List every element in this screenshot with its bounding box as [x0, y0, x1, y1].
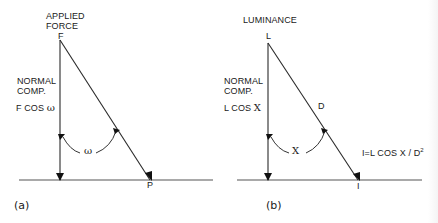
page-edge-shade — [428, 0, 438, 223]
applied-force-label-line1: APPLIED — [46, 11, 76, 21]
applied-force-label-line2: FORCE — [46, 21, 76, 31]
panel-label-b: (b) — [266, 199, 282, 212]
applied-force-label: APPLIED FORCE — [46, 11, 76, 31]
angle-label-omega: ω — [84, 146, 92, 156]
applied-force-line-a — [60, 40, 150, 180]
omega-symbol: ω — [47, 102, 55, 113]
normal-comp-label-b: NORMAL COMP. — [224, 76, 263, 96]
diagram-lines — [0, 0, 438, 223]
distance-label-d: D — [318, 101, 325, 111]
formula-text: I=L COS X / D — [362, 148, 420, 158]
diagram-b-geometry — [237, 43, 422, 181]
luminance-label: LUMINANCE — [243, 15, 297, 25]
angle-arc-right-b — [306, 131, 325, 153]
component-prefix-a: F COS — [16, 103, 44, 113]
normal-comp-line2-b: COMP. — [224, 86, 263, 96]
angle-arc-right-a — [96, 131, 116, 153]
normal-comp-line2-a: COMP. — [17, 86, 56, 96]
figure-canvas: APPLIED FORCE F NORMAL COMP. F COS ω ω P… — [0, 0, 438, 223]
point-label-p: P — [147, 180, 153, 190]
component-formula-a: F COS ω — [16, 103, 55, 113]
normal-comp-line1-a: NORMAL — [17, 76, 56, 86]
angle-arc-left-b — [271, 137, 289, 153]
luminance-line-b — [268, 43, 358, 180]
component-prefix-b: L COS — [224, 103, 251, 113]
component-formula-b: L COS X — [224, 103, 261, 113]
apex-label-f: F — [58, 31, 64, 41]
intensity-formula: I=L COS X / D2 — [362, 145, 424, 158]
angle-arc-left-a — [63, 137, 80, 153]
angle-label-x: X — [292, 146, 299, 156]
normal-comp-label-a: NORMAL COMP. — [17, 76, 56, 96]
normal-comp-line1-b: NORMAL — [224, 76, 263, 86]
point-label-i: I — [357, 181, 360, 191]
panel-label-a: (a) — [14, 199, 29, 212]
formula-exponent: 2 — [420, 147, 423, 153]
chi-symbol: X — [254, 102, 261, 113]
apex-label-l: L — [266, 31, 271, 41]
